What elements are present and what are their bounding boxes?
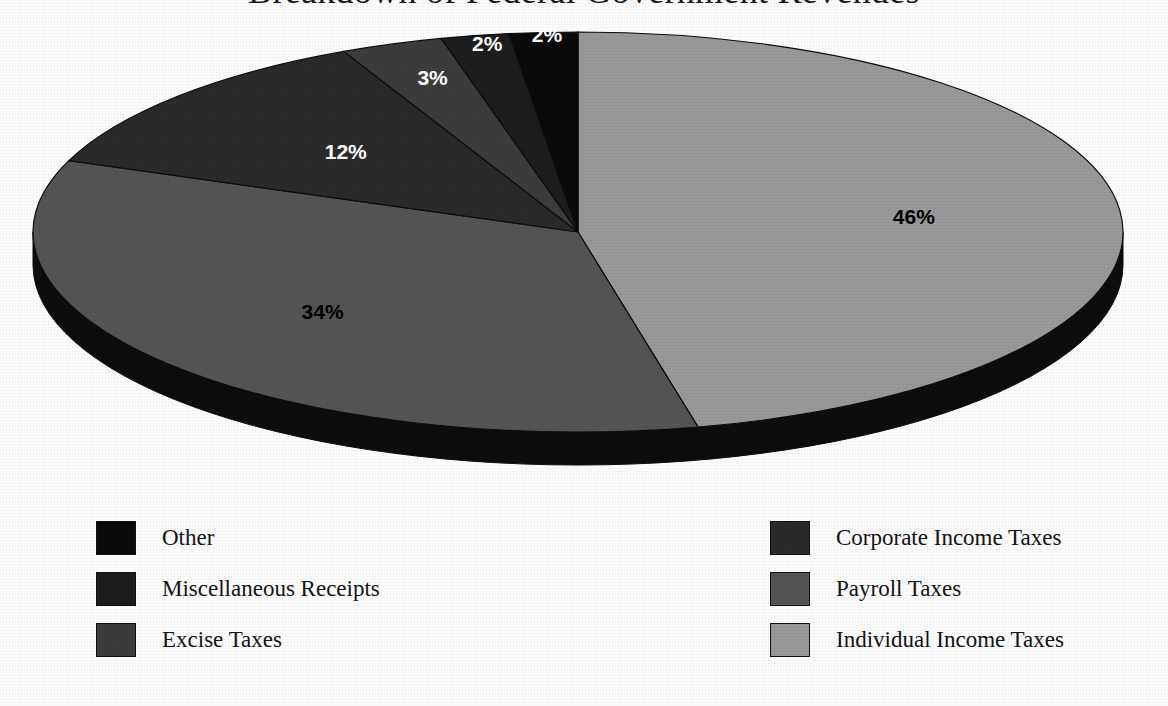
pie-slice-label: 34% xyxy=(302,300,344,323)
legend-item[interactable]: Excise Taxes xyxy=(96,614,380,665)
legend-swatch-icon xyxy=(96,623,136,657)
legend-swatch-icon xyxy=(96,521,136,555)
legend-column-left: OtherMiscellaneous ReceiptsExcise Taxes xyxy=(96,512,380,665)
legend-item-label: Individual Income Taxes xyxy=(836,627,1064,653)
pie-slice-label: 12% xyxy=(325,140,367,163)
legend-swatch-icon xyxy=(770,572,810,606)
pie-slices xyxy=(33,32,1123,432)
legend-item[interactable]: Individual Income Taxes xyxy=(770,614,1064,665)
legend-item[interactable]: Other xyxy=(96,512,380,563)
legend-swatch-icon xyxy=(770,623,810,657)
legend-column-right: Corporate Income TaxesPayroll TaxesIndiv… xyxy=(770,512,1064,665)
legend-item-label: Other xyxy=(162,525,214,551)
pie-slice-label: 2% xyxy=(472,32,503,55)
legend-item-label: Corporate Income Taxes xyxy=(836,525,1061,551)
pie-slice-label: 3% xyxy=(417,66,448,89)
legend-item[interactable]: Corporate Income Taxes xyxy=(770,512,1064,563)
pie-slice-label: 46% xyxy=(893,205,935,228)
legend-swatch-icon xyxy=(770,521,810,555)
pie-slice-label: 2% xyxy=(532,23,563,46)
pie-chart: 46%34%12%3%2%2% xyxy=(0,0,1168,500)
legend-item-label: Excise Taxes xyxy=(162,627,282,653)
legend-item-label: Miscellaneous Receipts xyxy=(162,576,380,602)
chart-page: Breakdown of Federal Government Revenues… xyxy=(0,0,1168,706)
pie-chart-svg: 46%34%12%3%2%2% xyxy=(0,0,1168,500)
chart-legend: OtherMiscellaneous ReceiptsExcise Taxes … xyxy=(0,512,1168,706)
legend-item[interactable]: Miscellaneous Receipts xyxy=(96,563,380,614)
legend-item-label: Payroll Taxes xyxy=(836,576,961,602)
legend-item[interactable]: Payroll Taxes xyxy=(770,563,1064,614)
legend-swatch-icon xyxy=(96,572,136,606)
